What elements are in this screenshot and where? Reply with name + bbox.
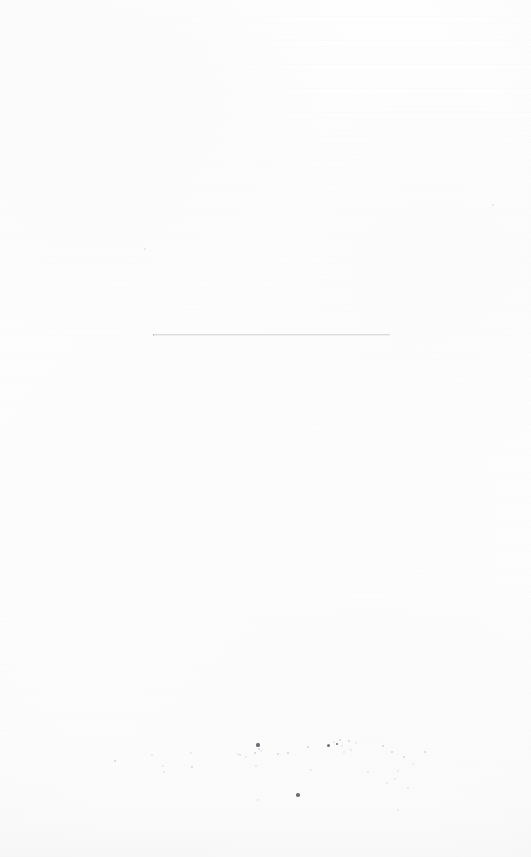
dust-speck [144, 248, 147, 251]
dust-speck [254, 752, 256, 754]
dust-speck [492, 204, 494, 206]
dust-speck [355, 742, 357, 744]
dust-speck [350, 749, 352, 751]
dust-speck [237, 753, 239, 755]
dust-speck [257, 799, 259, 801]
dust-speck [151, 754, 153, 756]
dust-speck [162, 765, 164, 767]
dust-speck [412, 763, 414, 765]
dust-speck [307, 746, 310, 749]
dust-speck [397, 809, 399, 811]
dust-speck [296, 793, 300, 797]
dust-speck [327, 744, 330, 747]
dust-speck [245, 756, 247, 758]
dust-speck [394, 778, 396, 780]
dust-speck [407, 787, 409, 789]
dust-speck [343, 751, 345, 753]
dust-speck [403, 756, 405, 758]
scanned-page [0, 0, 531, 857]
dust-speck [382, 745, 384, 747]
dust-speck [386, 782, 388, 784]
dust-speck [277, 753, 279, 755]
page-vignette [0, 0, 531, 857]
dust-speck [163, 771, 165, 773]
dust-speck [339, 739, 341, 741]
dust-speck [424, 751, 427, 754]
dust-speck [258, 748, 261, 751]
dust-speck [190, 752, 192, 754]
dust-speck [310, 769, 312, 771]
dust-speck [391, 751, 394, 754]
dust-speck [367, 771, 369, 773]
dust-speck [191, 766, 193, 768]
dust-speck [336, 743, 339, 746]
paper-texture [0, 0, 531, 857]
dust-speck [287, 752, 290, 755]
dust-speck [348, 740, 351, 743]
dust-speck [256, 743, 259, 746]
dust-speck [260, 750, 262, 752]
dust-speck [333, 741, 335, 743]
dust-speck [397, 770, 399, 772]
dust-speck [239, 754, 241, 756]
horizontal-rule [153, 334, 390, 336]
dust-speck [341, 745, 343, 747]
dust-speck [255, 765, 257, 767]
dust-speck [114, 760, 117, 763]
